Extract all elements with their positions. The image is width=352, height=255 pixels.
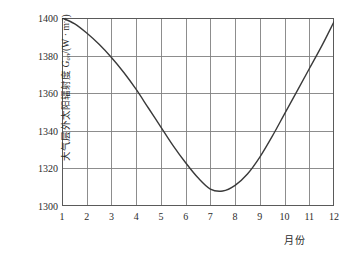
x-tick-label: 11	[304, 211, 314, 222]
x-tick-label: 3	[109, 211, 114, 222]
y-tick-label: 1320	[38, 163, 58, 174]
y-tick-label: 1360	[38, 88, 58, 99]
y-tick-label: 1300	[38, 201, 58, 212]
x-tick-label: 8	[233, 211, 238, 222]
plot-area: 130013201340136013801400 123456789101112…	[62, 18, 334, 206]
x-tick-label: 4	[134, 211, 139, 222]
y-tick-label: 1380	[38, 50, 58, 61]
y-axis-symbol: G	[61, 60, 71, 67]
y-tick-label: 1400	[38, 13, 58, 24]
x-tick-label: 2	[84, 211, 89, 222]
y-axis-unit-open: /(W · m	[61, 23, 71, 54]
plot-canvas	[62, 18, 334, 206]
y-axis-unit-exponent: -2	[60, 18, 67, 24]
y-axis-title-cjk: 大气层外太阳辐射度	[61, 67, 71, 160]
irradiance-curve	[62, 18, 334, 191]
x-tick-label: 9	[257, 211, 262, 222]
chart-figure: 130013201340136013801400 123456789101112…	[0, 0, 352, 255]
x-axis-title: 月份	[284, 232, 305, 247]
x-tick-label: 10	[280, 211, 290, 222]
x-tick-label: 7	[208, 211, 213, 222]
y-axis-unit-close: )	[61, 14, 71, 17]
x-tick-label: 5	[158, 211, 163, 222]
x-tick-label: 1	[60, 211, 65, 222]
y-tick-label: 1340	[38, 125, 58, 136]
y-axis-symbol-subscript: on	[64, 54, 71, 61]
y-axis-title: 大气层外太阳辐射度 Gon/(W · m-2)	[58, 0, 73, 188]
x-tick-label: 12	[329, 211, 339, 222]
x-tick-label: 6	[183, 211, 188, 222]
